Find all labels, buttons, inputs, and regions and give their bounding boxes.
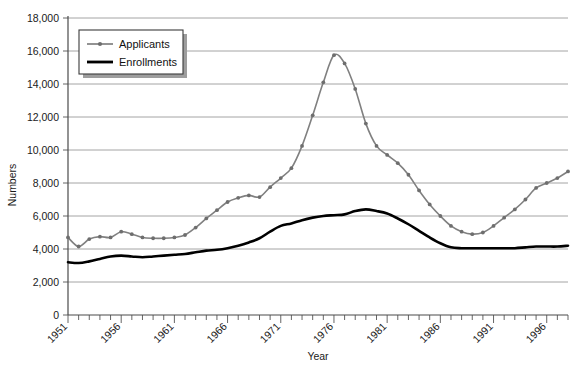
x-axis-tick-label: 1966 [204, 320, 229, 345]
series-markers-applicants [66, 53, 570, 248]
data-point-marker [502, 216, 506, 220]
data-point-marker [321, 80, 325, 84]
legend-marker-applicants [98, 42, 102, 46]
y-axis-title: Numbers [6, 164, 18, 207]
data-point-marker [258, 195, 262, 199]
data-point-marker [98, 235, 102, 239]
y-axis-tick-label: 6,000 [33, 210, 59, 222]
data-point-marker [66, 236, 70, 240]
x-axis-tick-label: 1986 [417, 320, 442, 345]
y-axis-labels-group: 02,0004,0006,0008,00010,00012,00014,0001… [27, 12, 59, 321]
data-point-marker [183, 233, 187, 237]
data-point-marker [226, 200, 230, 204]
y-axis-tick-label: 12,000 [27, 111, 59, 123]
data-point-marker [534, 186, 538, 190]
x-axis-tick-label: 1976 [310, 320, 335, 345]
data-point-marker [513, 208, 517, 212]
data-point-marker [130, 232, 134, 236]
x-axis-labels-group: 1951195619611966197119761981198619911996 [44, 320, 548, 345]
data-point-marker [151, 236, 155, 240]
x-axis-tick-label: 1971 [257, 320, 282, 345]
y-axis-tick-label: 16,000 [27, 45, 59, 57]
data-point-marker [492, 224, 496, 228]
data-point-marker [77, 245, 81, 249]
data-point-marker [311, 113, 315, 117]
y-tick-marks-group [63, 18, 68, 315]
y-axis-tick-label: 2,000 [33, 276, 59, 288]
data-point-marker [172, 236, 176, 240]
data-point-marker [290, 166, 294, 170]
x-axis-tick-label: 1951 [44, 320, 69, 345]
x-axis-tick-label: 1956 [98, 320, 123, 345]
data-point-marker [407, 173, 411, 177]
data-point-marker [364, 122, 368, 126]
y-axis-tick-label: 0 [53, 309, 59, 321]
x-axis-tick-label: 1961 [151, 320, 176, 345]
x-axis-tick-label: 1991 [470, 320, 495, 345]
data-point-marker [268, 185, 272, 189]
data-point-marker [353, 87, 357, 91]
data-point-marker [545, 181, 549, 185]
y-axis-tick-label: 10,000 [27, 144, 59, 156]
legend-label-enrollments: Enrollments [119, 56, 178, 68]
data-point-marker [109, 236, 113, 240]
data-point-marker [449, 224, 453, 228]
y-axis-tick-label: 4,000 [33, 243, 59, 255]
data-point-marker [555, 176, 559, 180]
x-axis-tick-label: 1981 [364, 320, 389, 345]
data-point-marker [396, 161, 400, 165]
data-point-marker [119, 230, 123, 234]
data-point-marker [215, 208, 219, 212]
data-point-marker [279, 176, 283, 180]
y-axis-tick-label: 14,000 [27, 78, 59, 90]
data-point-marker [438, 214, 442, 218]
data-point-marker [343, 61, 347, 65]
data-point-marker [162, 236, 166, 240]
data-point-marker [481, 231, 485, 235]
data-point-marker [204, 217, 208, 221]
data-point-marker [87, 237, 91, 241]
data-point-marker [236, 196, 240, 200]
data-point-marker [524, 198, 528, 202]
data-point-marker [332, 53, 336, 57]
line-chart: 02,0004,0006,0008,00010,00012,00014,0001… [0, 0, 577, 372]
data-point-marker [141, 236, 145, 240]
data-point-marker [247, 193, 251, 197]
data-point-marker [460, 230, 464, 234]
chart-legend: Applicants Enrollments [79, 30, 187, 78]
data-point-marker [470, 232, 474, 236]
y-axis-tick-label: 8,000 [33, 177, 59, 189]
data-point-marker [375, 144, 379, 148]
legend-label-applicants: Applicants [119, 38, 170, 50]
chart-container: 02,0004,0006,0008,00010,00012,00014,0001… [0, 0, 577, 372]
x-axis-tick-label: 1996 [523, 320, 548, 345]
data-point-marker [385, 153, 389, 157]
y-axis-tick-label: 18,000 [27, 12, 59, 24]
data-point-marker [566, 170, 570, 174]
data-point-marker [300, 144, 304, 148]
data-point-marker [417, 189, 421, 193]
data-point-marker [194, 226, 198, 230]
x-axis-title: Year [307, 350, 329, 362]
x-tick-marks-group [68, 315, 568, 323]
data-point-marker [428, 203, 432, 207]
